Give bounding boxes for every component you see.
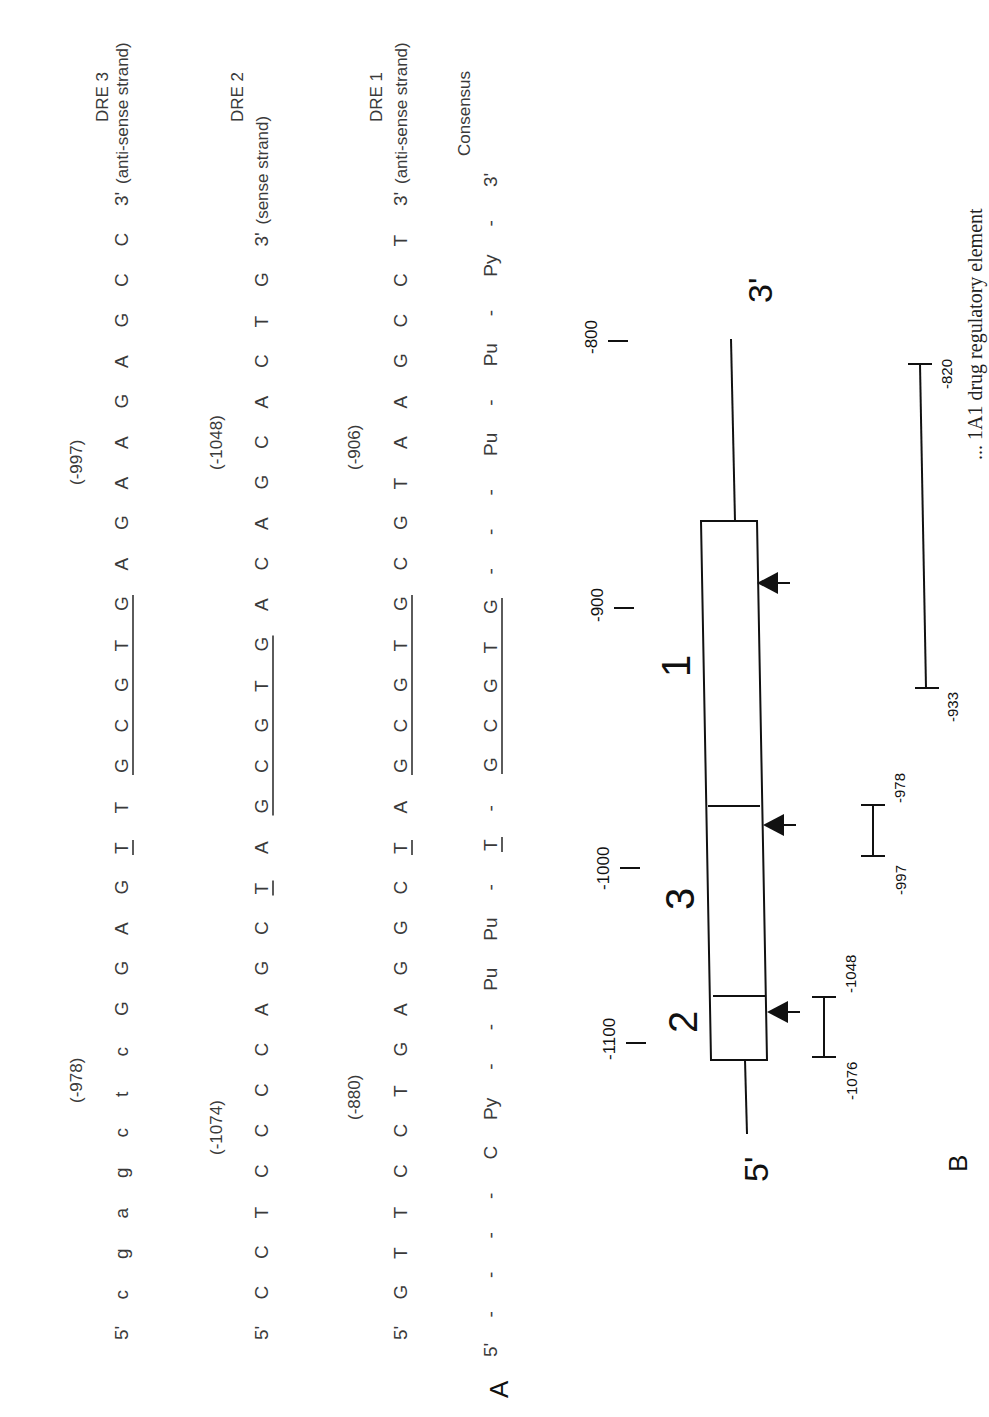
base: C [251, 1083, 272, 1097]
base: G [251, 718, 272, 733]
base: T [111, 802, 132, 814]
base: - [480, 400, 501, 406]
element-number-2: 2 [661, 1011, 705, 1033]
base: G [251, 637, 272, 652]
fragment-bar-1: -933 -820 [908, 359, 961, 722]
base: - [480, 310, 501, 316]
base: Pu [480, 433, 501, 456]
fragment-1-end: -820 [938, 359, 955, 389]
base: - [480, 568, 501, 574]
strand-label: (sense strand) [253, 116, 272, 225]
base: G [251, 475, 272, 490]
base: C [111, 233, 132, 247]
sequence-row: 5'cgagctcGGAGTTGCGTGAGAAGAGCC3'(anti-sen… [67, 42, 133, 1340]
five-prime-label: 5' [737, 1157, 775, 1182]
base: C [251, 1124, 272, 1138]
fragment-bar-3: -997 -978 [861, 773, 909, 895]
base: G [111, 758, 132, 773]
base: A [390, 436, 411, 449]
three-prime-marker: 3' [251, 232, 272, 246]
base: T [251, 883, 272, 895]
base: G [390, 677, 411, 692]
sequence-row: 5'----CPy--PuPu-T-GCGTG---Pu-Pu-Py-3' [480, 173, 502, 1357]
base: - [480, 529, 501, 535]
base: - [480, 1024, 501, 1030]
base: G [111, 880, 132, 895]
fragment-2-end: -1048 [842, 955, 859, 993]
base: T [390, 478, 411, 490]
base: C [251, 1286, 272, 1300]
base: C [390, 881, 411, 895]
base: - [480, 1272, 501, 1278]
dna-line-5prime [745, 1060, 747, 1134]
base: G [390, 961, 411, 976]
base: C [251, 1043, 272, 1057]
sequence-row: 5'GTTCCTGAGGCTAGCGTGCGTAAGCCT3'(anti-sen… [345, 42, 412, 1340]
base: Py [480, 1097, 501, 1120]
row-name-dre1: DRE 1 [367, 72, 386, 122]
base: Pu [480, 343, 501, 366]
base: Py [480, 254, 501, 277]
five-prime-marker: 5' [111, 1326, 132, 1340]
base: T [251, 1207, 272, 1219]
base: C [480, 719, 501, 733]
base: G [111, 515, 132, 530]
three-prime-marker: 3' [480, 173, 501, 187]
position-end: (-997) [67, 440, 86, 485]
base: c [111, 1047, 132, 1057]
base: G [480, 599, 501, 614]
base: C [111, 273, 132, 287]
base: C [111, 719, 132, 733]
base: T [390, 235, 411, 247]
row-name-consensus: Consensus [455, 71, 474, 156]
base: g [111, 1167, 132, 1178]
base: A [251, 1003, 272, 1016]
base: A [390, 1003, 411, 1016]
base: T [111, 640, 132, 652]
base: C [251, 354, 272, 368]
base: A [111, 355, 132, 368]
tick-label-1000: -1000 [594, 847, 613, 890]
tick-label-900: -900 [588, 588, 607, 622]
scale-ticks: -1100 -1000 -900 -800 [582, 320, 646, 1060]
base: A [251, 598, 272, 611]
base: g [111, 1248, 132, 1259]
base: C [480, 1146, 501, 1160]
base: T [390, 1085, 411, 1097]
base: t [111, 1091, 132, 1097]
base: C [251, 759, 272, 773]
base: G [390, 758, 411, 773]
fragment-3-start: -997 [892, 865, 909, 895]
base: G [480, 678, 501, 693]
base: G [111, 961, 132, 976]
base: T [251, 680, 272, 692]
panel-a-label: A [484, 1380, 514, 1398]
base: T [390, 1247, 411, 1259]
position-start: (-978) [67, 1058, 86, 1103]
base: G [480, 757, 501, 772]
base: G [251, 799, 272, 814]
dna-line-3prime [731, 339, 735, 521]
base: A [251, 841, 272, 854]
row-name-dre3: DRE 3 [93, 72, 112, 122]
base: - [480, 220, 501, 226]
base: c [111, 1128, 132, 1138]
element-number-1: 1 [654, 655, 698, 677]
base: - [480, 1064, 501, 1070]
base: T [251, 316, 272, 328]
base: G [390, 353, 411, 368]
base: A [390, 801, 411, 814]
three-prime-marker: 3' [390, 192, 411, 206]
base: A [111, 558, 132, 571]
position-start: (-880) [345, 1075, 364, 1120]
position-end: (-1048) [207, 415, 226, 470]
base: C [390, 1124, 411, 1138]
row-name-dre2: DRE 2 [228, 72, 247, 122]
base: C [251, 1164, 272, 1178]
panel-b: -1100 -1000 -900 -800 5' 3' 2 3 1 [582, 278, 973, 1182]
base: - [480, 884, 501, 890]
fragment-3-end: -978 [891, 773, 908, 803]
five-prime-marker: 5' [251, 1326, 272, 1340]
base: A [111, 922, 132, 935]
base: G [390, 596, 411, 611]
